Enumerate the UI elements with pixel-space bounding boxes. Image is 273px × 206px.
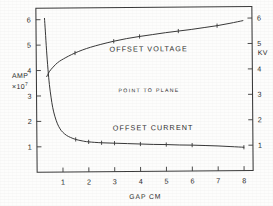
left-tick-label: 3: [27, 92, 31, 101]
left-tick-label: 5: [27, 41, 31, 50]
x-tick-label: 5: [164, 177, 168, 186]
x-tick-label: 8: [242, 176, 246, 185]
offset-voltage-label: OFFSET VOLTAGE: [109, 44, 188, 54]
left-tick-label: 6: [27, 15, 31, 24]
right-tick-label: 5: [257, 39, 261, 48]
x-tick-label: 7: [216, 176, 220, 185]
x-tick-label: 2: [87, 177, 91, 186]
offset-current-data-points: [76, 136, 244, 151]
left-axis-exponent: ×107: [12, 81, 28, 90]
right-tick-label: 3: [258, 90, 262, 99]
x-tick-label: 6: [190, 177, 194, 186]
x-axis-tick-labels: 12345678: [61, 176, 246, 186]
left-tick-label: 1: [28, 142, 32, 151]
x-axis-title: GAP CM: [129, 193, 161, 200]
right-tick-label: 2: [258, 115, 262, 124]
offset-current-label: OFFSET CURRENT: [113, 123, 194, 133]
point-to-plane-note: POINT TO PLANE: [119, 87, 180, 93]
right-axis-title: KV: [258, 49, 268, 56]
scanned-figure: 12345678 123456 123456 OFFSET VOLTAGE OF…: [0, 0, 273, 206]
x-tick-label: 3: [113, 177, 117, 186]
chart-canvas: 12345678 123456 123456 OFFSET VOLTAGE OF…: [0, 0, 273, 206]
left-axis-title: AMP: [12, 72, 28, 79]
x-tick-label: 4: [139, 177, 143, 186]
x-tick-label: 1: [61, 178, 65, 187]
right-tick-label: 1: [258, 141, 262, 150]
right-tick-label: 4: [257, 64, 261, 73]
left-tick-label: 2: [28, 117, 32, 126]
right-tick-label: 6: [257, 14, 261, 23]
right-axis-tick-labels: 123456: [257, 14, 262, 150]
